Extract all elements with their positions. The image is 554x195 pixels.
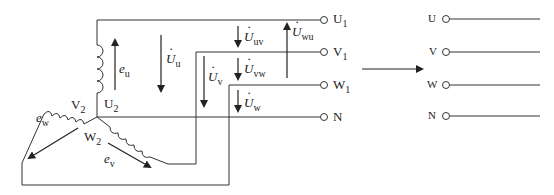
label-v1: V1 (333, 45, 347, 58)
terminal-w1 (321, 82, 328, 89)
label-Uvw: Uvw (244, 62, 266, 75)
label-w2: W2 (84, 130, 101, 143)
arrow-ew (29, 128, 78, 158)
label-right-w: W (427, 79, 437, 90)
label-u2: U2 (104, 97, 118, 110)
terminal-n (321, 114, 328, 121)
label-w1: W1 (333, 78, 350, 91)
label-right-n: N (428, 110, 436, 121)
label-Uw: Uw (244, 96, 261, 109)
label-Uuv: Uuv (244, 30, 263, 43)
terminal-v1 (321, 49, 328, 56)
coil-u (97, 45, 103, 115)
label-v2: V2 (71, 98, 85, 111)
wire-n (97, 115, 320, 117)
label-ev: ev (104, 152, 115, 165)
terminal-u1 (321, 17, 328, 24)
label-u1: U1 (333, 12, 347, 25)
label-eu: eu (119, 62, 130, 75)
label-Uv: Uv (208, 70, 222, 83)
coil-w (22, 111, 84, 163)
label-Uwu: Uwu (292, 25, 314, 38)
label-ew: ew (36, 111, 49, 124)
label-right-v: V (429, 46, 437, 57)
coil-v (110, 127, 168, 164)
label-right-u: U (428, 13, 436, 24)
label-Uu: Uu (166, 52, 180, 65)
label-n: N (333, 110, 342, 123)
star-connection-diagram: U1 V1 W1 N U2 V2 W2 eu ev ew Uu Uv Uw Uu… (0, 0, 554, 195)
